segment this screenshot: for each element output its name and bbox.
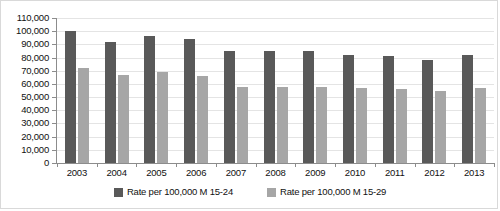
x-axis-tick-label: 2012 xyxy=(415,167,455,183)
y-axis-tick-mark xyxy=(52,163,56,164)
x-axis-tick-label: 2007 xyxy=(216,167,256,183)
x-axis-tick-label: 2008 xyxy=(256,167,296,183)
bar xyxy=(277,87,288,163)
bar-group xyxy=(176,1,216,163)
bar xyxy=(356,88,367,163)
bar xyxy=(224,51,235,163)
bar xyxy=(303,51,314,163)
bar xyxy=(184,39,195,163)
y-axis-tick-mark xyxy=(52,58,56,59)
bar xyxy=(462,55,473,163)
bar-group xyxy=(216,1,256,163)
y-axis-tick-label: 10,000 xyxy=(21,145,49,155)
x-axis-tick-label: 2006 xyxy=(176,167,216,183)
bar xyxy=(118,75,129,163)
x-axis-tick-label: 2010 xyxy=(335,167,375,183)
bar xyxy=(105,42,116,163)
legend-label: Rate per 100,000 M 15-29 xyxy=(280,187,386,197)
y-axis-tick-label: 30,000 xyxy=(21,119,49,129)
legend-swatch-icon xyxy=(267,188,276,197)
y-axis-tick-label: 0 xyxy=(44,158,49,168)
bar-group xyxy=(375,1,415,163)
bar-group xyxy=(415,1,455,163)
bar-group xyxy=(295,1,335,163)
x-axis: 2003200420052006200720082009201020112012… xyxy=(57,167,494,183)
bar-group xyxy=(136,1,176,163)
bar xyxy=(475,88,486,163)
legend-swatch-icon xyxy=(114,188,123,197)
x-axis-tick-mark xyxy=(494,163,495,167)
bar xyxy=(144,36,155,163)
bar xyxy=(435,91,446,164)
y-axis-tick-mark xyxy=(52,97,56,98)
bar-groups xyxy=(57,1,494,163)
legend-item: Rate per 100,000 M 15-29 xyxy=(267,187,386,197)
bar-group xyxy=(256,1,296,163)
y-axis-tick-mark xyxy=(52,150,56,151)
y-axis-tick-label: 40,000 xyxy=(21,106,49,116)
bar-chart: 110,000100,00090,00080,00070,00060,00050… xyxy=(0,0,498,209)
x-axis-tick-label: 2004 xyxy=(97,167,137,183)
y-axis-tick-label: 100,000 xyxy=(16,26,49,36)
bar-group xyxy=(57,1,97,163)
bar xyxy=(197,76,208,163)
y-axis-tick-mark xyxy=(52,44,56,45)
y-axis-tick-mark xyxy=(52,137,56,138)
y-axis-tick-mark xyxy=(52,18,56,19)
y-axis-tick-mark xyxy=(52,71,56,72)
x-axis-tick-label: 2003 xyxy=(57,167,97,183)
y-axis: 110,000100,00090,00080,00070,00060,00050… xyxy=(1,1,53,169)
bar xyxy=(65,31,76,163)
bar xyxy=(383,56,394,163)
x-axis-tick-label: 2009 xyxy=(295,167,335,183)
bar xyxy=(264,51,275,163)
y-axis-tick-label: 60,000 xyxy=(21,79,49,89)
x-axis-tick-label: 2011 xyxy=(375,167,415,183)
bar xyxy=(157,72,168,163)
bar xyxy=(422,60,433,163)
y-axis-tick-mark xyxy=(52,84,56,85)
bar-group xyxy=(454,1,494,163)
y-axis-tick-label: 70,000 xyxy=(21,66,49,76)
y-axis-tick-mark xyxy=(52,110,56,111)
plot-area: 110,000100,00090,00080,00070,00060,00050… xyxy=(1,1,499,169)
bar xyxy=(237,87,248,163)
bar-group xyxy=(335,1,375,163)
legend-item: Rate per 100,000 M 15-24 xyxy=(114,187,233,197)
bar xyxy=(78,68,89,163)
y-axis-tick-label: 50,000 xyxy=(21,92,49,102)
legend-label: Rate per 100,000 M 15-24 xyxy=(127,187,233,197)
bar xyxy=(316,87,327,163)
y-axis-tick-mark xyxy=(52,31,56,32)
y-axis-tick-label: 90,000 xyxy=(21,40,49,50)
y-axis-tick-mark xyxy=(52,123,56,124)
bar xyxy=(396,89,407,163)
y-axis-tick-label: 80,000 xyxy=(21,53,49,63)
chart-legend: Rate per 100,000 M 15-24Rate per 100,000… xyxy=(1,187,499,197)
x-axis-tick-label: 2005 xyxy=(136,167,176,183)
bar xyxy=(343,55,354,163)
y-axis-tick-label: 20,000 xyxy=(21,132,49,142)
x-axis-tick-label: 2013 xyxy=(454,167,494,183)
bar-group xyxy=(97,1,137,163)
y-axis-tick-label: 110,000 xyxy=(17,13,49,23)
